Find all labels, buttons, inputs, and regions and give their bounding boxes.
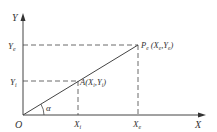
- x-axis-label: X: [194, 119, 202, 130]
- y-tick-yi: Yi: [10, 77, 17, 88]
- origin-label: O: [15, 119, 22, 130]
- y-tick-ye: Ye: [8, 41, 16, 52]
- diagram-canvas: Y X O Ye Yi Xi Xe Pe(Xe,Ye) A(Xi,Yi) α: [0, 0, 217, 132]
- x-tick-xe: Xe: [132, 119, 142, 130]
- x-axis-arrow-icon: [198, 113, 206, 118]
- angle-arc: [41, 104, 44, 115]
- x-tick-xi: Xi: [73, 119, 82, 130]
- endpoint-label: Pe(Xe,Ye): [140, 40, 173, 51]
- y-axis-arrow-icon: [21, 13, 26, 21]
- intermediate-point-label: A(Xi,Yi): [79, 77, 106, 88]
- angle-alpha-label: α: [46, 103, 51, 113]
- y-axis-label: Y: [12, 12, 19, 23]
